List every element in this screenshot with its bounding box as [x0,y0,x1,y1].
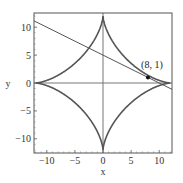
y-axis-label: y [6,78,11,89]
x-tick-label: −10 [39,155,55,166]
x-tick-label: −5 [70,155,81,166]
x-tick-label: 10 [154,155,164,166]
y-tick-label: 5 [26,50,31,61]
y-tick-label: −10 [15,133,31,144]
tangent-point-marker [146,75,150,79]
astroid-tangent-chart: −10−50510−10−50510 x y (8, 1) [0,0,183,183]
x-tick-label: 0 [101,155,106,166]
y-tick-label: −5 [20,105,31,116]
x-axis-label: x [101,166,106,177]
y-tick-label: 10 [21,22,31,33]
x-tick-label: 5 [129,155,134,166]
point-annotation: (8, 1) [141,59,163,71]
y-tick-label: 0 [26,78,31,89]
